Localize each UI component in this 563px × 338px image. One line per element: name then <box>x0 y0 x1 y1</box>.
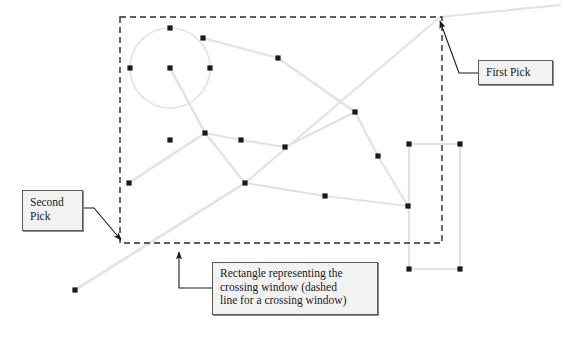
grip-point[interactable] <box>167 137 172 142</box>
grip-point[interactable] <box>207 65 212 70</box>
grip-point[interactable] <box>126 180 131 185</box>
leader-line-crossing-window <box>179 252 212 288</box>
grip-point[interactable] <box>352 109 357 114</box>
grip-point[interactable] <box>457 266 462 271</box>
grip-point[interactable] <box>127 65 132 70</box>
grip-point[interactable] <box>238 137 243 142</box>
grip-point[interactable] <box>202 130 207 135</box>
crossing-window-rect[interactable] <box>120 17 442 243</box>
grip-point[interactable] <box>167 65 172 70</box>
leader-line-second-pick <box>83 208 121 240</box>
grip-point[interactable] <box>406 141 411 146</box>
entity-polyline[interactable] <box>205 112 355 147</box>
callout-crossing-window: Rectangle representing the crossing wind… <box>212 262 378 315</box>
grip-point[interactable] <box>457 141 462 146</box>
callout-second-pick: Second Pick <box>22 190 83 231</box>
entity-line-group <box>75 5 560 290</box>
grip-point[interactable] <box>405 203 410 208</box>
leader-line-first-pick <box>440 21 478 73</box>
entity-polyline[interactable] <box>129 68 205 183</box>
entity-polyline[interactable] <box>203 38 408 206</box>
grip-point[interactable] <box>242 180 247 185</box>
grip-point[interactable] <box>72 287 77 292</box>
grip-point[interactable] <box>282 144 287 149</box>
grip-point[interactable] <box>322 193 327 198</box>
entity-polyline[interactable] <box>409 144 460 269</box>
grip-point[interactable] <box>375 153 380 158</box>
grip-point[interactable] <box>406 266 411 271</box>
point-marker-group <box>72 25 462 292</box>
grip-point[interactable] <box>200 35 205 40</box>
crossing-window-outline[interactable] <box>120 17 442 243</box>
grip-point[interactable] <box>275 55 280 60</box>
entity-polyline[interactable] <box>75 68 245 290</box>
callout-first-pick: First Pick <box>478 60 553 85</box>
grip-point[interactable] <box>167 25 172 30</box>
diagram-canvas: First Pick Second Pick Rectangle represe… <box>0 0 563 338</box>
entity-polyline[interactable] <box>75 5 560 290</box>
